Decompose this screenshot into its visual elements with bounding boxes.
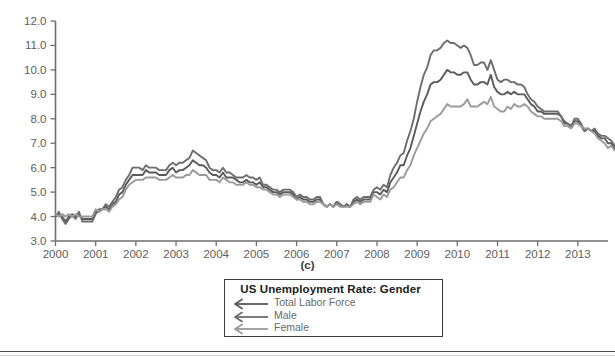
left-arrow-icon — [230, 296, 270, 308]
y-axis-tick-label: 8.0 — [31, 113, 47, 125]
y-axis-tick-label: 6.0 — [31, 162, 47, 174]
line-chart-plot: 3.04.05.06.07.08.09.010.011.012.0 200020… — [0, 0, 615, 260]
y-axis-tick-label: 11.0 — [25, 39, 47, 51]
legend-entry: Total Labor Force — [225, 296, 442, 309]
axes — [56, 21, 609, 241]
y-axis-tick-label: 5.0 — [31, 186, 47, 198]
legend-entry: Male — [225, 309, 442, 322]
series-line — [56, 97, 615, 217]
legend-entry-label: Total Labor Force — [270, 296, 356, 308]
panel-caption: (c) — [0, 259, 615, 271]
legend-entry-list: Total Labor ForceMaleFemale — [225, 296, 442, 334]
y-axis-ticks: 3.04.05.06.07.08.09.010.011.012.0 — [24, 15, 55, 247]
legend-title: US Unemployment Rate: Gender — [225, 280, 442, 296]
unemployment-figure: 3.04.05.06.07.08.09.010.011.012.0 200020… — [0, 0, 615, 359]
chart-legend: US Unemployment Rate: Gender Total Labor… — [224, 279, 443, 337]
x-axis-ticks: 2000200120022003200420052006200720082009… — [43, 241, 591, 260]
left-arrow-icon — [230, 321, 270, 333]
legend-entry-label: Male — [270, 309, 297, 321]
footer-divider-secondary — [0, 355, 615, 356]
y-axis-tick-label: 7.0 — [31, 137, 47, 149]
y-axis-tick-label: 9.0 — [31, 88, 47, 100]
y-axis-tick-label: 3.0 — [31, 235, 47, 247]
y-axis-tick-label: 10.0 — [24, 64, 46, 76]
y-axis-tick-label: 4.0 — [31, 211, 47, 223]
legend-entry-label: Female — [270, 321, 309, 333]
footer-divider — [0, 351, 615, 352]
left-arrow-icon — [230, 309, 270, 321]
data-series-group — [56, 41, 615, 224]
series-line — [56, 41, 615, 224]
legend-entry: Female — [225, 321, 442, 334]
y-axis-tick-label: 12.0 — [24, 15, 46, 27]
series-line — [56, 70, 615, 222]
